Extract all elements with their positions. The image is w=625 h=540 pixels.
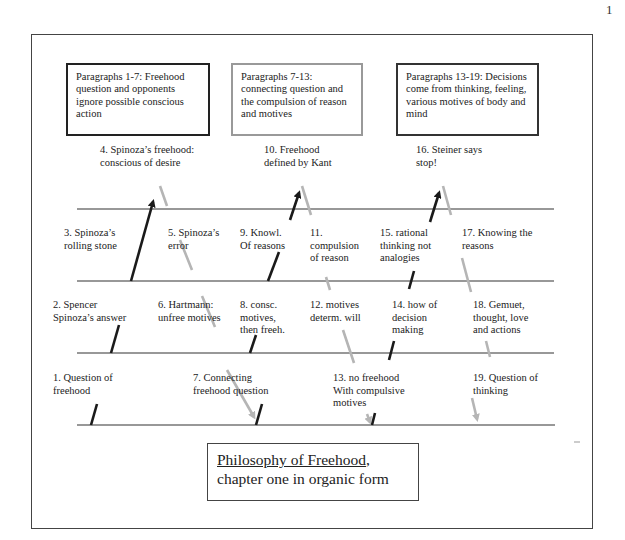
step-label-8: 8. consc. motives, then freeh. — [240, 299, 285, 337]
step-line: unfree motives — [158, 312, 221, 325]
step-line: 3. Spinoza’s — [64, 227, 117, 240]
title-box: Philosophy of Freehood, chapter one in o… — [207, 443, 419, 501]
step-line: 1. Question of — [53, 372, 113, 385]
step-label-7: 7. Connecting freehood question — [193, 372, 269, 397]
step-label-1: 1. Question of freehood — [53, 372, 113, 397]
step-line: reasons — [462, 240, 532, 253]
step-label-15: 15. rational thinking not analogies — [380, 227, 431, 265]
title-comma: , — [366, 451, 370, 468]
step-label-6: 6. Hartmann: unfree motives — [158, 299, 221, 324]
step-line: thought, love — [473, 312, 528, 325]
step-line: thinking — [473, 385, 538, 398]
step-label-3: 3. Spinoza’s rolling stone — [64, 227, 117, 252]
step-line: 2. Spencer — [53, 299, 126, 312]
step-line: and actions — [473, 324, 528, 337]
step-line: 12. motives — [310, 299, 361, 312]
step-line: freehood question — [193, 385, 269, 398]
title-line-2: chapter one in organic form — [217, 469, 409, 488]
step-label-13: 13. no freehood With compulsive motives — [333, 372, 405, 410]
step-label-19: 19. Question of thinking — [473, 372, 538, 397]
step-line: making — [392, 324, 437, 337]
step-line: 14. how of — [392, 299, 437, 312]
step-line: decision — [392, 312, 437, 325]
step-line: rolling stone — [64, 240, 117, 253]
step-label-16: 16. Steiner says stop! — [416, 144, 482, 169]
step-line: freehood — [53, 385, 113, 398]
step-line: defined by Kant — [264, 157, 332, 170]
step-line: 17. Knowing the — [462, 227, 532, 240]
step-line: compulsion — [310, 240, 359, 253]
step-label-5: 5. Spinoza’s error — [168, 227, 219, 252]
step-label-4: 4. Spinoza’s freehood: conscious of desi… — [100, 144, 194, 169]
step-label-18: 18. Gemuet, thought, love and actions — [473, 299, 528, 337]
step-line: thinking not — [380, 240, 431, 253]
step-line: determ. will — [310, 312, 361, 325]
step-line: stop! — [416, 157, 482, 170]
step-line: 5. Spinoza’s — [168, 227, 219, 240]
step-line: error — [168, 240, 219, 253]
title-underlined: Philosophy of Freehood — [217, 451, 366, 468]
step-line: conscious of desire — [100, 157, 194, 170]
title-line-1: Philosophy of Freehood, — [217, 450, 409, 469]
step-line: Of reasons — [240, 240, 285, 253]
step-line: With compulsive — [333, 385, 405, 398]
step-line: 18. Gemuet, — [473, 299, 528, 312]
step-line: Spinoza’s answer — [53, 312, 126, 325]
step-line: motives — [333, 397, 405, 410]
step-line: motives, — [240, 312, 285, 325]
step-line: 4. Spinoza’s freehood: — [100, 144, 194, 157]
step-line: of reason — [310, 252, 359, 265]
scan-artifact — [574, 441, 580, 443]
step-line: 10. Freehood — [264, 144, 332, 157]
step-label-17: 17. Knowing the reasons — [462, 227, 532, 252]
step-line: 19. Question of — [473, 372, 538, 385]
step-label-11: 11. compulsion of reason — [310, 227, 359, 265]
step-line: 9. Knowl. — [240, 227, 285, 240]
step-label-14: 14. how of decision making — [392, 299, 437, 337]
step-line: 13. no freehood — [333, 372, 405, 385]
step-label-9: 9. Knowl. Of reasons — [240, 227, 285, 252]
step-label-12: 12. motives determ. will — [310, 299, 361, 324]
step-line: 15. rational — [380, 227, 431, 240]
step-line: 7. Connecting — [193, 372, 269, 385]
step-line: analogies — [380, 252, 431, 265]
step-line: 16. Steiner says — [416, 144, 482, 157]
step-label-2: 2. Spencer Spinoza’s answer — [53, 299, 126, 324]
step-line: 6. Hartmann: — [158, 299, 221, 312]
step-label-10: 10. Freehood defined by Kant — [264, 144, 332, 169]
step-line: 8. consc. — [240, 299, 285, 312]
step-line: 11. — [310, 227, 359, 240]
step-line: then freeh. — [240, 324, 285, 337]
